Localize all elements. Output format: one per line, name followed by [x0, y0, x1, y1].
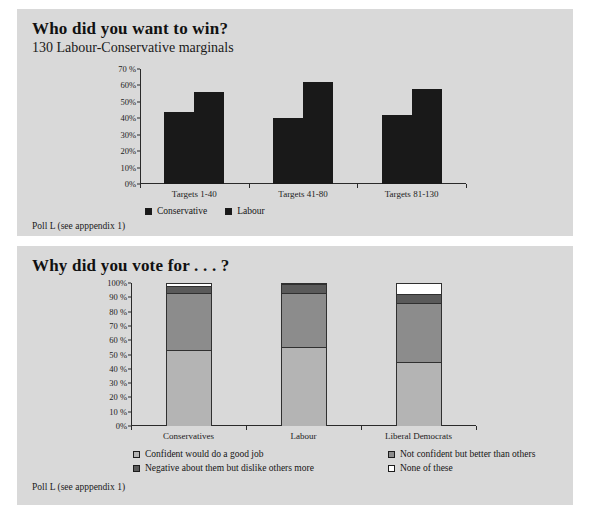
chart-2-caption: Poll L (see apppendix 1) [32, 482, 125, 492]
chart-1-x-tick-label: Targets 1-40 [172, 189, 217, 199]
chart-2-bar-segment [281, 284, 327, 293]
chart-1-legend: Conservative Labour [145, 206, 283, 216]
chart-2-x-tick-label: Labour [291, 431, 317, 441]
legend-item-not-confident-better[interactable]: Not confident but better than others [388, 449, 535, 459]
chart-1-x-tick-label: Targets 41-80 [278, 189, 327, 199]
chart-1-y-axis [140, 69, 141, 184]
chart-1-title: Who did you want to win? [32, 19, 228, 39]
chart-2-bar-segment [396, 294, 442, 303]
chart-2-bar-segment [166, 350, 212, 426]
chart-2-bar-segment [281, 347, 327, 426]
chart-1-bar [412, 89, 442, 184]
legend-swatch-icon [145, 208, 152, 215]
chart-2-plot-area: 0%10 %20 %30 %40 %50 %60 %70 %80 %90 %10… [131, 283, 476, 426]
chart-2-y-tick-mark [128, 340, 131, 341]
page-root: Who did you want to win? 130 Labour-Cons… [0, 0, 590, 514]
legend-item-labour[interactable]: Labour [225, 206, 264, 216]
chart-2-bar-segment [396, 303, 442, 362]
chart-1-x-tick-mark [140, 184, 141, 188]
chart-1-x-tick-mark [466, 184, 467, 188]
chart-2-x-tick-mark [246, 426, 247, 430]
chart-1-x-tick-mark [357, 184, 358, 188]
chart-1-x-tick-label: Targets 81-130 [385, 189, 439, 199]
legend-swatch-icon [388, 451, 395, 458]
chart-2-legend: Confident would do a good job Not confid… [133, 447, 535, 475]
chart-2-y-tick-mark [128, 297, 131, 298]
chart-2-bar-segment [166, 293, 212, 350]
chart-2-x-tick-mark [361, 426, 362, 430]
chart-2-y-axis [131, 283, 132, 426]
chart-1-y-tick-mark [137, 85, 140, 86]
chart-1-subtitle: 130 Labour-Conservative marginals [32, 40, 234, 56]
chart-2-y-tick-mark [128, 397, 131, 398]
legend-swatch-icon [225, 208, 232, 215]
chart-1-caption: Poll L (see apppendix 1) [32, 221, 125, 231]
chart-1-y-tick-mark [137, 167, 140, 168]
chart-1-bar [273, 118, 303, 184]
legend-swatch-icon [388, 465, 395, 472]
chart-2-bar-segment [396, 283, 442, 294]
chart-2-x-tick-label: Liberal Democrats [385, 431, 452, 441]
legend-swatch-icon [133, 465, 140, 472]
chart-1-y-tick-mark [137, 101, 140, 102]
legend-item-conservative[interactable]: Conservative [145, 206, 207, 216]
legend-label: Confident would do a good job [145, 449, 263, 459]
chart-2-y-tick-mark [128, 383, 131, 384]
chart-1-y-tick-mark [137, 118, 140, 119]
chart-1-y-tick-mark [137, 151, 140, 152]
chart-panel-top: Who did you want to win? 130 Labour-Cons… [17, 9, 573, 236]
chart-2-x-tick-mark [131, 426, 132, 430]
chart-2-bar-segment [166, 283, 212, 286]
legend-item-none-of-these[interactable]: None of these [388, 463, 535, 473]
chart-1-y-tick-mark [137, 69, 140, 70]
chart-2-bar-segment [166, 286, 212, 293]
legend-label: Conservative [157, 206, 207, 216]
legend-label: Negative about them but dislike others m… [145, 463, 314, 473]
chart-1-bar [194, 92, 224, 184]
legend-label: Not confident but better than others [400, 449, 535, 459]
chart-2-y-tick-mark [128, 411, 131, 412]
chart-1-x-tick-mark [249, 184, 250, 188]
chart-2-x-tick-label: Conservatives [163, 431, 214, 441]
legend-label: Labour [237, 206, 264, 216]
chart-2-y-tick-mark [128, 283, 131, 284]
chart-1-plot-area: 0%10%20%30%40%50%60%70 %Targets 1-40Targ… [140, 69, 466, 184]
legend-item-negative-dislike-others[interactable]: Negative about them but dislike others m… [133, 463, 388, 473]
chart-1-bar [303, 82, 333, 184]
chart-2-bar-segment [281, 283, 327, 284]
chart-2-y-tick-mark [128, 354, 131, 355]
chart-2-x-tick-mark [476, 426, 477, 430]
legend-label: None of these [400, 463, 453, 473]
chart-2-y-tick-mark [128, 368, 131, 369]
chart-panel-bottom: Why did you vote for . . . ? 0%10 %20 %3… [17, 246, 573, 505]
chart-2-y-tick-mark [128, 311, 131, 312]
legend-swatch-icon [133, 451, 140, 458]
chart-2-bar-segment [396, 362, 442, 426]
chart-2-bar-segment [281, 293, 327, 347]
chart-1-y-tick-mark [137, 134, 140, 135]
chart-2-title: Why did you vote for . . . ? [32, 256, 230, 276]
chart-1-bar [164, 112, 194, 184]
chart-1-bar [382, 115, 412, 184]
chart-2-y-tick-mark [128, 325, 131, 326]
legend-item-confident-good-job[interactable]: Confident would do a good job [133, 449, 388, 459]
